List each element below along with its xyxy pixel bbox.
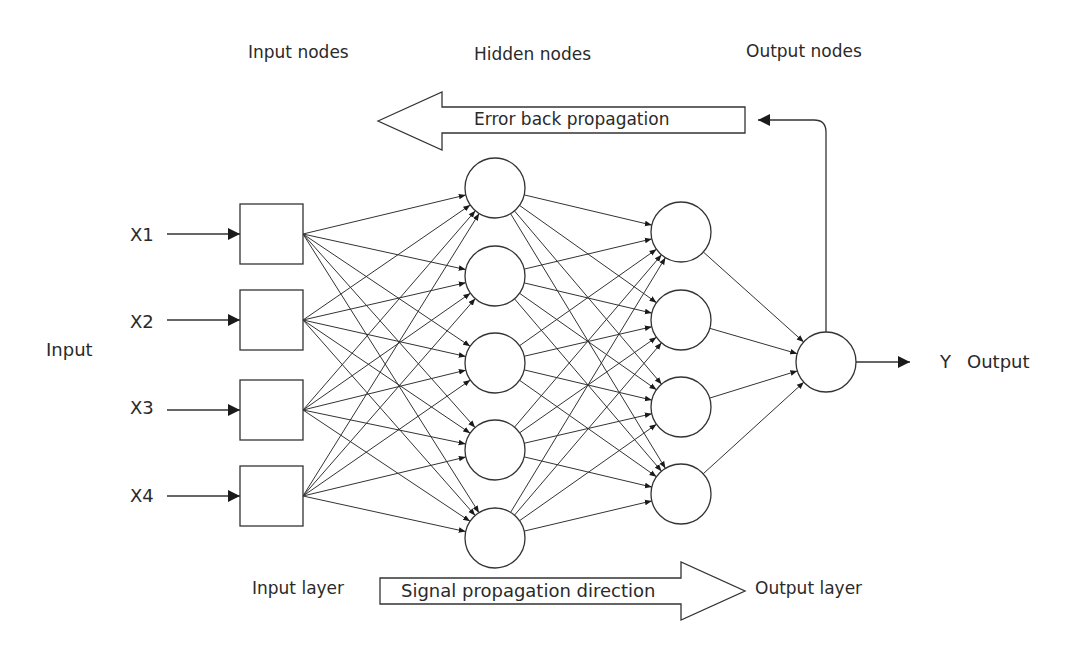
input-x2-label: X2 bbox=[130, 313, 154, 331]
input-node-3 bbox=[240, 380, 303, 440]
edge-output-3-final bbox=[710, 371, 798, 398]
input-x3-label: X3 bbox=[130, 399, 154, 417]
edge-input-1-hidden-3 bbox=[303, 234, 470, 346]
edge-hidden-4-output-1 bbox=[514, 255, 661, 427]
input-side-label: Input bbox=[46, 341, 93, 359]
output-layer-node-1 bbox=[651, 202, 711, 262]
hidden-node-1 bbox=[465, 158, 525, 218]
input-node-2 bbox=[240, 290, 303, 350]
output-side-label: Output bbox=[967, 353, 1030, 371]
edge-input-3-hidden-4 bbox=[303, 410, 466, 444]
hidden-nodes-label: Hidden nodes bbox=[474, 46, 591, 63]
edge-input-1-hidden-4 bbox=[303, 234, 475, 428]
edge-input-1-hidden-1 bbox=[303, 195, 466, 234]
input-node-1 bbox=[240, 204, 303, 264]
y-label: Y bbox=[940, 353, 951, 371]
input-layer-label: Input layer bbox=[252, 580, 344, 597]
edge-output-2-final bbox=[710, 328, 797, 353]
hidden-node-3 bbox=[465, 333, 525, 393]
network-graphic bbox=[0, 0, 1076, 650]
edge-hidden-5-output-2 bbox=[514, 343, 661, 515]
edge-hidden-1-output-1 bbox=[524, 195, 652, 225]
hidden-node-5 bbox=[465, 508, 525, 568]
edge-hidden-5-output-4 bbox=[524, 501, 652, 531]
edge-input-3-hidden-5 bbox=[303, 410, 470, 521]
edge-input-3-hidden-1 bbox=[303, 211, 475, 410]
edge-input-4-hidden-5 bbox=[303, 496, 466, 532]
edge-hidden-5-output-3 bbox=[520, 424, 657, 520]
edge-hidden-5-output-1 bbox=[511, 258, 666, 513]
input-x1-label: X1 bbox=[130, 226, 154, 244]
input-nodes-label: Input nodes bbox=[248, 44, 349, 61]
output-layer-node-4 bbox=[651, 464, 711, 524]
input-node-4 bbox=[240, 466, 303, 526]
network-nodes bbox=[240, 158, 856, 568]
edge-input-4-hidden-1 bbox=[303, 213, 479, 496]
hidden-node-2 bbox=[465, 246, 525, 306]
neural-network-diagram: Input nodes Hidden nodes Output nodes Er… bbox=[0, 0, 1076, 650]
output-layer-node-3 bbox=[651, 377, 711, 437]
edge-hidden-3-output-1 bbox=[520, 249, 657, 345]
edge-input-4-hidden-3 bbox=[303, 380, 470, 496]
output-layer-label: Output layer bbox=[755, 580, 862, 597]
edge-input-2-hidden-4 bbox=[303, 320, 470, 433]
input-x4-label: X4 bbox=[130, 487, 154, 505]
output-nodes-label: Output nodes bbox=[746, 43, 862, 60]
error-back-propagation-label: Error back propagation bbox=[474, 111, 669, 128]
edge-output-1-final bbox=[703, 252, 803, 342]
feedback-line bbox=[758, 120, 826, 332]
signal-propagation-label: Signal propagation direction bbox=[401, 582, 655, 600]
hidden-node-4 bbox=[465, 420, 525, 480]
final-output-node bbox=[796, 332, 856, 392]
edge-hidden-2-output-1 bbox=[524, 239, 652, 269]
output-layer-node-2 bbox=[651, 290, 711, 350]
